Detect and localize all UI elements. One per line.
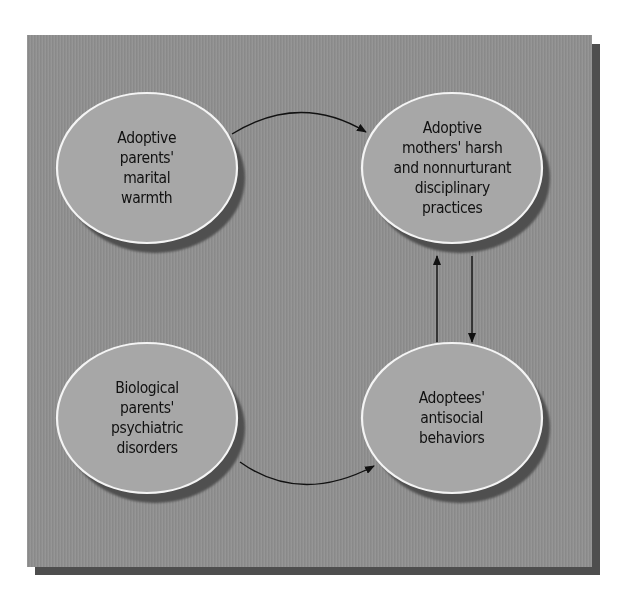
node-label: Adoptees' antisocial behaviors xyxy=(419,388,485,448)
arrow-psychiatric-to-antisocial xyxy=(240,462,374,485)
node-label: Biological parents' psychiatric disorder… xyxy=(111,378,183,458)
diagram-canvas xyxy=(0,0,617,597)
arrow-warmth-to-discipline xyxy=(232,112,366,134)
node-adoptees-antisocial-behaviors: Adoptees' antisocial behaviors xyxy=(362,343,542,493)
node-mothers-harsh-discipline: Adoptive mothers' harsh and nonnurturant… xyxy=(362,93,542,243)
node-label: Adoptive mothers' harsh and nonnurturant… xyxy=(393,118,510,218)
node-biological-psychiatric-disorders: Biological parents' psychiatric disorder… xyxy=(57,343,237,493)
node-adoptive-marital-warmth: Adoptive parents' marital warmth xyxy=(57,93,237,243)
node-label: Adoptive parents' marital warmth xyxy=(118,128,177,208)
